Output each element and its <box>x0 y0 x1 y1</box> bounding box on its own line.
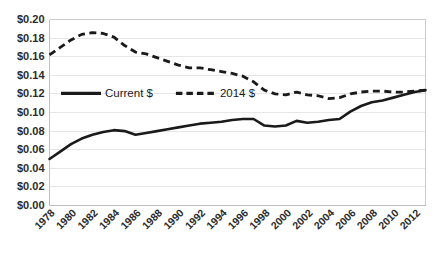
chart-legend: Current $2014 $ <box>61 87 256 99</box>
x-axis-tick-label: 1996 <box>225 206 250 231</box>
y-axis-tick-label: $0.12 <box>17 87 45 99</box>
x-axis-tick-label: 1984 <box>96 206 121 231</box>
x-axis-tick-label: 1980 <box>53 206 78 231</box>
x-axis-tick-label: 2000 <box>268 206 293 231</box>
y-axis-tick-label: $0.16 <box>17 50 45 62</box>
x-axis-tick-label: 1994 <box>204 206 229 231</box>
x-axis-tick-label: 2002 <box>290 206 315 231</box>
legend-label-current-dollars: Current $ <box>105 87 154 99</box>
x-axis-tick-label: 1982 <box>75 206 100 231</box>
y-axis-tick-label: $0.08 <box>17 125 45 137</box>
series-line-current-dollars <box>50 90 426 159</box>
x-axis-tick-label: 1988 <box>139 206 164 231</box>
x-axis-tick-label: 1990 <box>161 206 186 231</box>
y-axis-tick-label: $0.10 <box>17 106 45 118</box>
x-axis-tick-label: 1998 <box>247 206 272 231</box>
x-axis-tick-label: 2006 <box>333 206 358 231</box>
y-axis-tick-label: $0.04 <box>17 162 45 174</box>
y-axis-tick-labels: $0.00$0.02$0.04$0.06$0.08$0.10$0.12$0.14… <box>17 13 45 211</box>
gridlines-group <box>50 20 426 206</box>
x-axis-tick-label: 2010 <box>376 206 401 231</box>
line-chart: $0.00$0.02$0.04$0.06$0.08$0.10$0.12$0.14… <box>0 0 438 255</box>
x-axis-tick-label: 2008 <box>354 206 379 231</box>
x-axis-tick-label: 2012 <box>397 206 422 231</box>
x-axis-tick-label: 1992 <box>182 206 207 231</box>
chart-container: $0.00$0.02$0.04$0.06$0.08$0.10$0.12$0.14… <box>0 0 438 255</box>
y-axis-tick-label: $0.20 <box>17 13 45 25</box>
legend-label-2014-dollars: 2014 $ <box>220 87 256 99</box>
y-axis-tick-label: $0.06 <box>17 143 45 155</box>
x-axis-tick-labels: 1978198019821984198619881990199219941996… <box>32 206 422 231</box>
x-axis-tick-label: 2004 <box>311 206 336 231</box>
y-axis-tick-label: $0.18 <box>17 32 45 44</box>
x-axis-tick-label: 1986 <box>118 206 143 231</box>
y-axis-tick-label: $0.14 <box>17 69 45 81</box>
y-axis-tick-label: $0.02 <box>17 180 45 192</box>
y-axis-tick-label: $0.00 <box>17 199 45 211</box>
